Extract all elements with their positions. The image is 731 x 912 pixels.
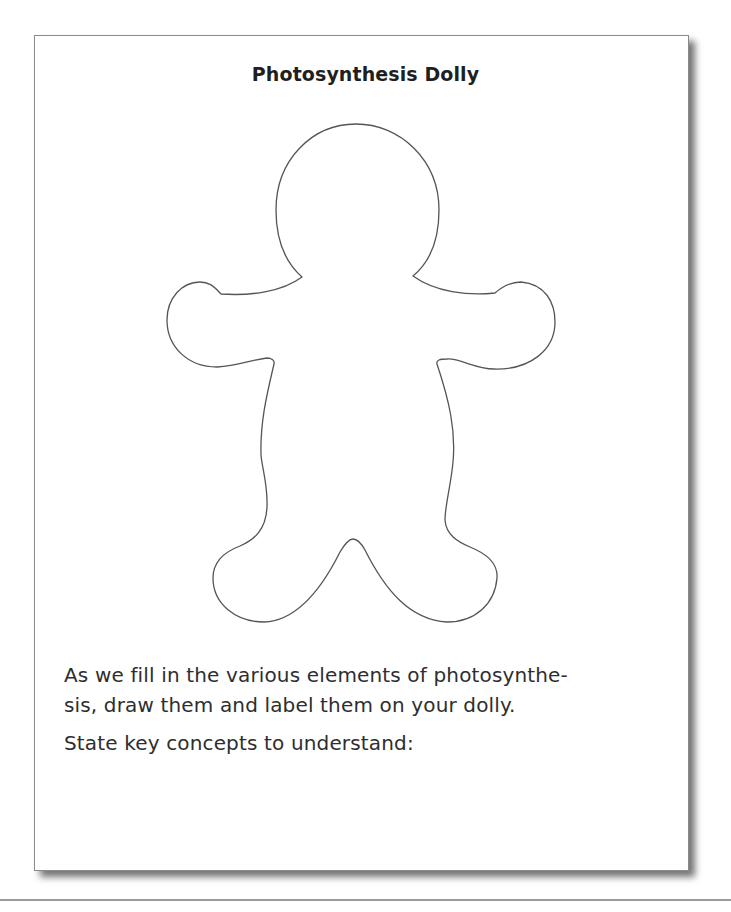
worksheet-title: Photosynthesis Dolly bbox=[0, 63, 731, 85]
key-concepts-answer-area bbox=[64, 764, 664, 859]
instructions-line-2: sis, draw them and label them on your do… bbox=[64, 690, 664, 720]
page-bottom-rule bbox=[0, 899, 731, 901]
instructions-line-1: As we fill in the various elements of ph… bbox=[64, 660, 664, 690]
instructions-text: As we fill in the various elements of ph… bbox=[64, 660, 664, 720]
key-concepts-prompt: State key concepts to understand: bbox=[64, 728, 414, 758]
